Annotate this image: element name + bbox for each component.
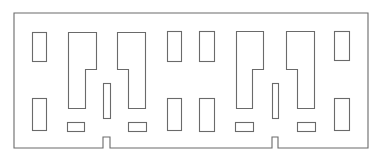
- room-left-top: [33, 33, 47, 62]
- room-center-left-top: [168, 32, 182, 62]
- column-a: [104, 84, 111, 119]
- floor-plan-diagram: [0, 0, 381, 162]
- room-left-bottom: [33, 99, 47, 131]
- l-room-4: [287, 32, 315, 109]
- l-room-1: [69, 33, 97, 109]
- l-room-3: [237, 32, 264, 109]
- l-room-2: [118, 33, 146, 109]
- room-center-right-top: [200, 32, 215, 62]
- room-center-right-bottom: [200, 99, 215, 132]
- l-rooms-group: [69, 32, 315, 109]
- slot-a-bottom: [68, 123, 85, 132]
- slot-c-bottom: [236, 123, 254, 132]
- slot-b-bottom: [129, 123, 147, 132]
- rooms-group: [33, 32, 350, 132]
- column-b: [273, 84, 279, 119]
- room-right-bottom: [335, 99, 350, 131]
- slot-d-bottom: [298, 123, 316, 132]
- room-right-top: [335, 32, 350, 61]
- room-center-left-bottom: [168, 99, 182, 131]
